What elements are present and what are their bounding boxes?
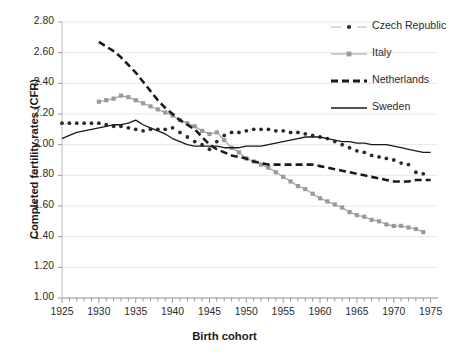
series-marker (134, 127, 138, 131)
series-marker (90, 121, 94, 125)
legend-swatch (330, 81, 368, 82)
series-marker (340, 143, 344, 147)
y-axis-tick-label: 1.80 (14, 168, 54, 179)
series-marker (384, 222, 388, 226)
series-marker (399, 224, 403, 228)
series-marker (392, 158, 396, 162)
series-marker (215, 140, 219, 144)
series-marker (244, 129, 248, 133)
series-marker (355, 213, 359, 217)
series-marker (384, 157, 388, 161)
series-marker (126, 126, 130, 130)
y-axis-tick-label: 2.40 (14, 76, 54, 87)
series-marker (362, 215, 366, 219)
y-axis-tick-label: 1.20 (14, 260, 54, 271)
series-marker (237, 131, 241, 135)
series-marker (274, 129, 278, 133)
series-marker (97, 121, 101, 125)
x-axis-tick-label: 1960 (300, 306, 340, 317)
series-marker (208, 147, 212, 151)
x-axis-tick-label: 1955 (263, 306, 303, 317)
series-line (62, 120, 431, 152)
y-axis-tick-label: 2.80 (14, 15, 54, 26)
y-axis-tick-label: 1.40 (14, 230, 54, 241)
series-marker (163, 110, 167, 114)
series-marker (163, 127, 167, 131)
series-marker (421, 172, 425, 176)
x-axis-tick-label: 1970 (374, 306, 414, 317)
series-marker (325, 199, 329, 203)
series-marker (237, 150, 241, 154)
series-marker (266, 166, 270, 170)
series-marker (347, 210, 351, 214)
series-marker (311, 192, 315, 196)
series-marker (119, 94, 123, 98)
series-marker (281, 129, 285, 133)
series-marker (274, 170, 278, 174)
series-marker (414, 170, 418, 174)
series-marker (362, 150, 366, 154)
series-marker (178, 131, 182, 135)
series-marker (215, 130, 219, 134)
legend-label: Netherlands (372, 73, 429, 85)
series-marker (171, 126, 175, 130)
series-marker (377, 155, 381, 159)
series-marker (60, 121, 64, 125)
series-marker (97, 100, 101, 104)
series-marker (348, 146, 352, 150)
series-marker (193, 140, 197, 144)
x-axis-tick-label: 1940 (153, 306, 193, 317)
series-marker (222, 134, 226, 138)
series-marker (318, 196, 322, 200)
series-marker (185, 135, 189, 139)
series-marker (370, 218, 374, 222)
series-marker (281, 175, 285, 179)
series-marker (126, 95, 130, 99)
series-marker (259, 127, 263, 131)
x-axis-tick-label: 1950 (226, 306, 266, 317)
legend-swatch (330, 54, 368, 55)
series-marker (156, 107, 160, 111)
series-czech-republic (60, 121, 425, 175)
y-axis-tick-label: 1.00 (14, 291, 54, 302)
series-marker (303, 132, 307, 136)
series-marker (333, 202, 337, 206)
x-axis-tick-label: 1935 (116, 306, 156, 317)
series-marker (148, 104, 152, 108)
series-marker (303, 187, 307, 191)
series-sweden (62, 120, 431, 152)
y-axis-tick-label: 2.20 (14, 107, 54, 118)
y-axis-tick-label: 1.60 (14, 199, 54, 210)
legend-swatch (330, 108, 368, 109)
series-marker (141, 101, 145, 105)
y-axis-tick-label: 2.60 (14, 46, 54, 57)
series-marker (406, 225, 410, 229)
series-marker (414, 227, 418, 231)
fertility-rates-chart: Completed fertility rates (CFR) Birth co… (0, 0, 449, 356)
series-marker (222, 138, 226, 142)
series-marker (230, 131, 234, 135)
series-marker (82, 121, 86, 125)
legend-swatch (330, 27, 368, 28)
legend-label: Sweden (372, 100, 410, 112)
series-marker (67, 121, 71, 125)
x-axis-tick-label: 1975 (411, 306, 449, 317)
y-axis-tick-label: 2.00 (14, 138, 54, 149)
series-marker (421, 230, 425, 234)
series-italy (97, 94, 426, 235)
series-marker (207, 132, 211, 136)
legend-label: Czech Republic (372, 19, 446, 31)
series-marker (267, 127, 271, 131)
series-marker (193, 124, 197, 128)
series-marker (200, 129, 204, 133)
series-marker (141, 129, 145, 133)
series-marker (288, 179, 292, 183)
series-marker (355, 149, 359, 153)
series-marker (340, 205, 344, 209)
series-marker (392, 224, 396, 228)
series-marker (296, 184, 300, 188)
x-axis-title: Birth cohort (0, 330, 449, 342)
x-axis-tick-label: 1925 (42, 306, 82, 317)
series-marker (112, 97, 116, 101)
series-marker (377, 219, 381, 223)
